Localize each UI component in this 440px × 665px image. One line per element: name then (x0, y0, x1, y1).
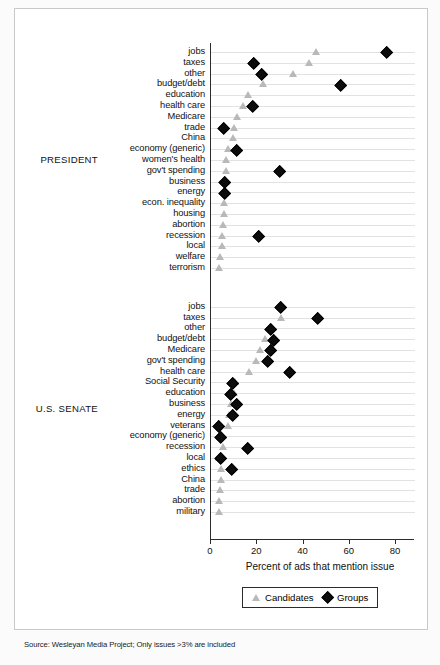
data-point-candidates (220, 210, 228, 217)
data-point-groups (283, 366, 296, 379)
data-point-candidates (230, 124, 238, 131)
category-label: terrorism (60, 262, 205, 273)
diamond-marker-icon (321, 591, 334, 604)
category-label: education (60, 89, 205, 100)
gridline (211, 268, 415, 269)
data-point-groups (261, 355, 274, 368)
category-label: military (60, 506, 205, 517)
category-label: economy (generic) (60, 430, 205, 441)
data-point-candidates (222, 167, 230, 174)
category-label: jobs (60, 301, 205, 312)
category-label: abortion (60, 495, 205, 506)
data-point-candidates (256, 346, 264, 353)
x-axis-tick (349, 540, 350, 544)
legend-label-groups: Groups (337, 592, 368, 603)
gridline (211, 469, 415, 470)
category-label: econ. inequality (60, 197, 205, 208)
gridline (211, 350, 415, 351)
data-point-candidates (217, 476, 225, 483)
data-point-candidates (277, 314, 285, 321)
data-point-groups (217, 122, 230, 135)
category-label: local (60, 240, 205, 251)
data-point-candidates (245, 368, 253, 375)
gridline (211, 128, 415, 129)
category-label: jobs (60, 46, 205, 57)
category-label: trade (60, 484, 205, 495)
data-point-candidates (216, 253, 224, 260)
gridline (211, 307, 415, 308)
x-axis-title: Percent of ads that mention issue (190, 561, 440, 572)
data-point-candidates (229, 134, 237, 141)
gridline (211, 490, 415, 491)
data-point-candidates (305, 59, 313, 66)
category-label: health care (60, 100, 205, 111)
triangle-marker-icon (252, 594, 260, 601)
category-label: energy (60, 186, 205, 197)
gridline (211, 339, 415, 340)
gridline (211, 246, 415, 247)
category-label: trade (60, 122, 205, 133)
category-label: other (60, 68, 205, 79)
gridline (211, 171, 415, 172)
data-point-groups (246, 100, 259, 113)
data-point-candidates (222, 156, 230, 163)
gridline (211, 480, 415, 481)
category-label: business (60, 176, 205, 187)
gridline (211, 426, 415, 427)
x-axis-tick-label: 40 (288, 545, 318, 556)
category-label: economy (generic) (60, 143, 205, 154)
category-label: China (60, 474, 205, 485)
category-label: recession (60, 441, 205, 452)
x-axis-tick-label: 20 (241, 545, 271, 556)
gridline (211, 415, 415, 416)
category-label: taxes (60, 312, 205, 323)
gridline (211, 372, 415, 373)
legend-item-groups: Groups (323, 592, 369, 603)
category-label: Social Security (60, 376, 205, 387)
gridline (211, 393, 415, 394)
data-point-groups (334, 79, 347, 92)
gridline (211, 160, 415, 161)
data-point-candidates (215, 497, 223, 504)
data-point-candidates (252, 357, 260, 364)
figure-background: 020406080Percent of ads that mention iss… (0, 0, 440, 665)
category-label: China (60, 132, 205, 143)
data-point-candidates (217, 465, 225, 472)
category-label: Medicare (60, 111, 205, 122)
data-point-candidates (215, 264, 223, 271)
gridline (211, 328, 415, 329)
x-axis-tick (395, 540, 396, 544)
x-axis-tick (210, 540, 211, 544)
panel-label: U.S. SENATE (20, 403, 98, 414)
chart-legend: CandidatesGroups (242, 587, 378, 608)
data-point-candidates (219, 221, 227, 228)
category-label: budget/debt (60, 333, 205, 344)
data-point-groups (252, 230, 265, 243)
x-axis-tick (256, 540, 257, 544)
category-label: housing (60, 208, 205, 219)
gridline (211, 117, 415, 118)
data-point-candidates (312, 48, 320, 55)
gridline (211, 361, 415, 362)
x-axis-line (210, 539, 414, 540)
x-axis-tick-label: 60 (334, 545, 364, 556)
category-label: ethics (60, 463, 205, 474)
gridline (211, 382, 415, 383)
gridline (211, 257, 415, 258)
data-point-candidates (224, 422, 232, 429)
legend-label-candidates: Candidates (265, 592, 314, 603)
data-point-candidates (259, 80, 267, 87)
category-label: gov't spending (60, 165, 205, 176)
category-label: local (60, 452, 205, 463)
category-label: abortion (60, 219, 205, 230)
category-label: welfare (60, 251, 205, 262)
gridline (211, 138, 415, 139)
category-label: taxes (60, 57, 205, 68)
gridline (211, 214, 415, 215)
gridline (211, 436, 415, 437)
data-point-groups (311, 312, 324, 325)
data-point-candidates (215, 508, 223, 515)
gridline (211, 203, 415, 204)
data-point-candidates (218, 232, 226, 239)
data-point-candidates (216, 486, 224, 493)
